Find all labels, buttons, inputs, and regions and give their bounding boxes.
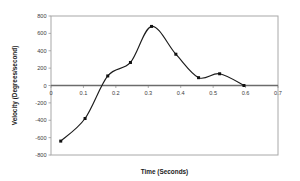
y-tick-label: 600 [37,30,46,36]
x-tick-label: 0.1 [80,90,88,96]
y-tick-label: -400 [35,117,46,123]
x-tick-label: 0.4 [177,90,185,96]
x-tick-label: 0.7 [274,90,282,96]
chart-svg: -800-600-400-2000200400600800 00.10.20.3… [0,0,300,181]
y-tick-label: 800 [37,13,46,19]
data-point-marker [150,25,153,28]
x-tick-label: 0 [49,90,52,96]
y-tick-label: 0 [43,83,46,89]
data-point-marker [84,117,87,120]
y-axis-title: Velocity (Degrees/second) [11,46,19,126]
data-point-marker [197,76,200,79]
y-tick-label: -800 [35,152,46,158]
x-tick-label: 0.2 [112,90,120,96]
y-tick-label: -200 [35,100,46,106]
data-point-marker [174,53,177,56]
data-point-marker [59,140,62,143]
data-point-marker [129,61,132,64]
y-tick-label: 400 [37,48,46,54]
velocity-time-chart: -800-600-400-2000200400600800 00.10.20.3… [0,0,300,181]
x-tick-label: 0.5 [209,90,217,96]
x-tick-label: 0.6 [242,90,250,96]
x-axis-title: Time (Seconds) [141,168,188,176]
data-point-marker [106,74,109,77]
data-point-marker [242,84,245,87]
x-tick-label: 0.3 [144,90,152,96]
data-point-marker [218,72,221,75]
y-tick-label: 200 [37,65,46,71]
y-tick-label: -600 [35,135,46,141]
